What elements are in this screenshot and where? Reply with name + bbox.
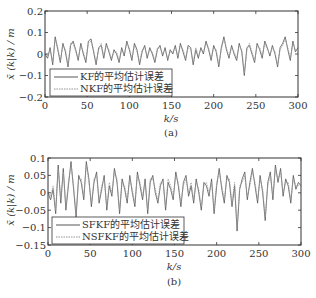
y-tick-label: −0.05 (15, 205, 46, 216)
x-tick-label: 200 (207, 248, 226, 259)
x-tick-label: 50 (84, 248, 97, 259)
legend-b: SFKF的平均估计误差 NSFKF的平均估计误差 (52, 217, 189, 244)
chart-panel-b: 0.10.050−0.05−0.1−0.15 05010015020025030… (0, 0, 316, 298)
y-tick-label: 0.05 (24, 170, 46, 181)
x-tick-label: 150 (165, 248, 184, 259)
x-tick-label: 100 (123, 248, 142, 259)
y-tick-label: −0.15 (15, 240, 46, 251)
legend-label-nsfkf: NSFKF的平均估计误差 (82, 230, 189, 242)
x-tick-label: 0 (45, 248, 51, 259)
chart-b-svg: 0.10.050−0.05−0.1−0.15 05010015020025030… (0, 0, 316, 298)
x-tick-label: 250 (249, 248, 268, 259)
y-tick-label: 0 (40, 187, 46, 198)
y-tick-label: 0.1 (30, 153, 46, 164)
y-axis-title-b: x̄ (k|k) / m (5, 174, 17, 225)
x-axis-title-b: k/s (167, 261, 182, 272)
caption-b: (b) (167, 276, 181, 287)
legend-label-sfkf: SFKF的平均估计误差 (82, 218, 180, 230)
y-tick-label: −0.1 (22, 222, 46, 233)
x-tick-label: 300 (291, 248, 310, 259)
plot-area-b: 0.10.050−0.05−0.1−0.15 05010015020025030… (15, 153, 310, 260)
